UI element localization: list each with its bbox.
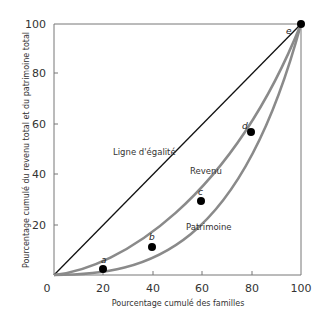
y-tick-label: 100	[25, 18, 46, 31]
y-tick-label: 80	[32, 67, 46, 80]
y-tick-label: 40	[32, 168, 46, 181]
equality-line	[54, 24, 301, 275]
revenu-label: Revenu	[190, 166, 222, 176]
origin-label: 0	[44, 282, 51, 295]
point-label-b: b	[149, 232, 155, 242]
patrimoine-label: Patrimoine	[186, 222, 232, 232]
point-label-d: d	[242, 121, 248, 131]
x-tick-label: 80	[245, 282, 259, 295]
point-c	[197, 197, 205, 205]
x-ticks	[103, 271, 252, 275]
point-label-c: c	[198, 187, 203, 197]
x-tick-label: 40	[146, 282, 160, 295]
y-axis-title: Pourcentage cumulé du revenu total et du…	[21, 32, 31, 268]
y-tick-label: 20	[32, 219, 46, 232]
point-b	[148, 243, 156, 251]
x-axis-title: Pourcentage cumulé des familles	[112, 298, 245, 308]
y-tick-label: 60	[32, 118, 46, 131]
y-ticks	[54, 73, 58, 225]
equality-label: Ligne d'égalité	[113, 147, 176, 157]
point-label-a: a	[101, 255, 107, 265]
x-tick-label: 60	[195, 282, 209, 295]
point-d	[247, 128, 255, 136]
point-label-e: e	[286, 26, 292, 36]
x-tick-label: 20	[96, 282, 110, 295]
lorenz-chart: 20 40 60 80 100 0 20 40 60 80 100 Pource…	[0, 0, 323, 323]
x-tick-label: 100	[291, 282, 312, 295]
point-e	[297, 20, 305, 28]
point-a	[99, 265, 107, 273]
